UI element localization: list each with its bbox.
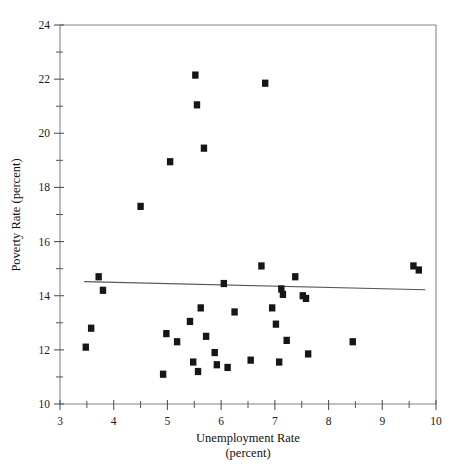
data-point-marker <box>247 357 253 364</box>
data-point-marker <box>163 330 169 337</box>
plot-canvas: 1012141618202224 345678910 Poverty Rate … <box>0 0 455 473</box>
data-point-marker <box>187 318 193 325</box>
y-tick-label: 14 <box>39 290 51 302</box>
data-point-marker <box>211 349 217 356</box>
data-point-marker <box>100 287 106 294</box>
data-point-marker <box>192 71 198 78</box>
x-tick-label: 7 <box>272 415 278 427</box>
x-axis-subtitle: (percent) <box>225 446 270 460</box>
data-point-marker <box>273 321 279 328</box>
data-point-marker <box>214 361 220 368</box>
y-tick-label: 20 <box>39 127 51 139</box>
x-axis-title: Unemployment Rate <box>196 431 300 445</box>
y-tick-label: 12 <box>39 344 51 356</box>
data-point-marker <box>190 358 196 365</box>
y-tick-label: 10 <box>39 398 51 410</box>
data-point-marker <box>416 266 422 273</box>
data-point-marker <box>224 364 230 371</box>
x-tick-label: 9 <box>379 415 385 427</box>
data-point-marker <box>174 338 180 345</box>
y-tick-label: 18 <box>39 181 51 193</box>
data-point-marker <box>198 304 204 311</box>
data-point-marker <box>201 145 207 152</box>
data-point-marker <box>88 325 94 332</box>
data-point-marker <box>292 273 298 280</box>
data-point-marker <box>283 337 289 344</box>
data-point-marker <box>276 358 282 365</box>
x-tick-label: 3 <box>57 415 63 427</box>
data-point-marker <box>167 158 173 165</box>
axis-frame <box>60 25 436 404</box>
x-tick-label: 6 <box>218 415 224 427</box>
data-point-marker <box>83 344 89 351</box>
regression-line <box>84 282 425 290</box>
data-point-marker <box>194 101 200 108</box>
y-tick-label: 22 <box>39 73 51 85</box>
data-point-marker <box>95 273 101 280</box>
data-point-marker <box>258 262 264 269</box>
regression-line-segment <box>84 282 425 290</box>
x-tick-label: 5 <box>165 415 171 427</box>
data-point-marker <box>203 333 209 340</box>
y-tick-label: 24 <box>39 19 51 31</box>
data-point-marker <box>303 295 309 302</box>
data-point-marker <box>137 203 143 210</box>
data-point-marker <box>305 350 311 357</box>
data-point-marker <box>221 280 227 287</box>
axes-group <box>60 25 436 404</box>
data-point-marker <box>160 371 166 378</box>
data-point-marker <box>231 308 237 315</box>
y-axis-title: Poverty Rate (percent) <box>9 158 23 271</box>
x-tick-label: 8 <box>326 415 332 427</box>
scatter-plot-figure: 1012141618202224 345678910 Poverty Rate … <box>0 0 455 473</box>
data-points-group <box>83 71 422 377</box>
y-tick-label: 16 <box>39 236 51 248</box>
data-point-marker <box>269 304 275 311</box>
x-tick-label: 10 <box>430 415 442 427</box>
x-tick-label: 4 <box>111 415 117 427</box>
data-point-marker <box>280 291 286 298</box>
data-point-marker <box>350 338 356 345</box>
data-point-marker <box>262 80 268 87</box>
data-point-marker <box>195 368 201 375</box>
